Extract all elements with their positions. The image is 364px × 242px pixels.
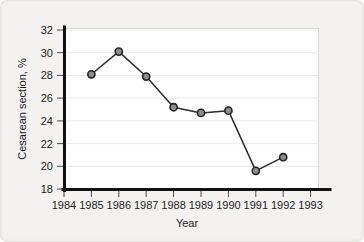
- y-tick-label: 28: [41, 69, 53, 81]
- y-tick-label: 18: [41, 183, 53, 195]
- data-point: [170, 104, 177, 111]
- data-point: [143, 73, 150, 80]
- x-axis-title: Year: [176, 217, 199, 229]
- x-tick-label: 1991: [244, 199, 268, 211]
- chart-plot-area: 32 30 28 26 24 22 20 18: [0, 0, 364, 242]
- figure-container: 32 30 28 26 24 22 20 18: [0, 0, 364, 242]
- data-point: [115, 48, 122, 55]
- x-axis-ticks: [64, 191, 311, 197]
- y-tick-label: 32: [41, 24, 53, 36]
- x-tick-label: 1990: [216, 199, 240, 211]
- data-point: [225, 107, 232, 114]
- y-axis-ticks: [57, 30, 63, 189]
- data-point: [88, 71, 95, 78]
- x-tick-label: 1993: [298, 199, 322, 211]
- x-tick-label: 1992: [271, 199, 295, 211]
- x-tick-label: 1987: [134, 199, 158, 211]
- y-tick-label: 26: [41, 92, 53, 104]
- x-tick-label: 1985: [79, 199, 103, 211]
- x-tick-label: 1986: [107, 199, 131, 211]
- y-tick-label: 24: [41, 115, 53, 127]
- x-tick-label: 1988: [161, 199, 185, 211]
- data-point: [280, 154, 287, 161]
- x-tick-label: 1989: [189, 199, 213, 211]
- y-tick-label: 22: [41, 138, 53, 150]
- x-tick-label: 1984: [52, 199, 76, 211]
- data-point: [197, 109, 204, 116]
- data-point: [252, 167, 259, 174]
- y-axis-title: Cesarean section, %: [16, 58, 28, 160]
- line-chart: 32 30 28 26 24 22 20 18: [0, 0, 364, 242]
- y-axis-tick-labels: 32 30 28 26 24 22 20 18: [41, 24, 53, 195]
- y-tick-label: 20: [41, 160, 53, 172]
- x-axis-tick-labels: 1984 1985 1986 1987 1988 1989 1990 1991 …: [52, 199, 323, 211]
- y-tick-label: 30: [41, 47, 53, 59]
